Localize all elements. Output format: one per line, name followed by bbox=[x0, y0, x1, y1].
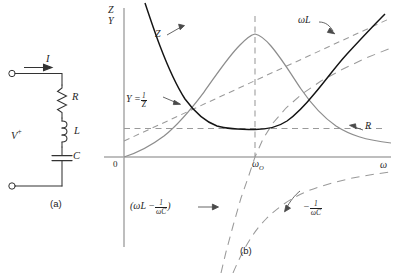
current-label: I bbox=[46, 54, 50, 65]
impedance-curve bbox=[145, 3, 385, 130]
net-reactance-label: (ωL −1ωC) bbox=[130, 199, 171, 215]
source-polarity-sign: + bbox=[17, 127, 21, 136]
capacitive-reactance-label: −1ωC bbox=[303, 200, 322, 216]
inductive-reactance-label: ωL bbox=[298, 15, 311, 26]
net-reactance-curve bbox=[221, 48, 391, 273]
admittance-lhs: Y = bbox=[126, 93, 141, 104]
resistance-label-leader bbox=[350, 124, 364, 130]
top-terminal-node bbox=[9, 70, 15, 76]
net-reactance-denominator: ωC bbox=[155, 207, 167, 216]
resistor-label: R bbox=[72, 92, 78, 103]
resonance-tick-subscript: O bbox=[259, 164, 264, 171]
inductive-reactance-line bbox=[124, 18, 391, 141]
figure-root: I V+ R L C (a) bbox=[0, 0, 399, 273]
resonance-tick-label: ωO bbox=[252, 159, 264, 172]
impedance-curve-label: Z bbox=[155, 29, 161, 40]
current-arrow bbox=[24, 64, 52, 71]
inductive-reactance-label-leader bbox=[319, 22, 335, 34]
y-axis-label-admittance: Y bbox=[108, 16, 114, 27]
net-reactance-open: (ωL − bbox=[130, 200, 155, 211]
net-reactance-fraction: 1ωC bbox=[155, 199, 167, 215]
capacitive-reactance-label-leader bbox=[285, 191, 301, 212]
net-reactance-close: ) bbox=[167, 200, 170, 211]
capacitive-reactance-curve bbox=[233, 172, 391, 273]
admittance-fraction: 1Z bbox=[141, 92, 147, 108]
y-axis-label: Z Y bbox=[108, 5, 114, 27]
source-voltage-label: V+ bbox=[11, 128, 22, 141]
admittance-denominator: Z bbox=[141, 100, 147, 109]
panel-b-caption: (b) bbox=[240, 245, 252, 256]
admittance-curve-label: Y =1Z bbox=[126, 92, 147, 108]
capacitive-reactance-sign: − bbox=[303, 201, 310, 212]
net-reactance-numerator: 1 bbox=[155, 199, 167, 207]
net-reactance-label-leader bbox=[198, 204, 219, 210]
capacitive-reactance-denominator: ωC bbox=[310, 208, 322, 217]
admittance-label-leader bbox=[163, 97, 181, 105]
resonance-tick-omega: ω bbox=[252, 158, 259, 169]
impedance-label-leader bbox=[167, 24, 185, 35]
panel-a-caption: (a) bbox=[50, 198, 62, 209]
capacitor-label: C bbox=[73, 151, 80, 162]
resistance-label: R bbox=[365, 121, 371, 132]
graph-panel: Z Y 0 ω ωO Z Y =1Z ωL R (ωL −1ωC) −1ωC (… bbox=[100, 0, 399, 273]
origin-label: 0 bbox=[113, 160, 118, 169]
frequency-response-chart bbox=[100, 0, 399, 273]
admittance-numerator: 1 bbox=[141, 92, 147, 100]
bottom-terminal-node bbox=[9, 183, 15, 189]
capacitive-reactance-fraction: 1ωC bbox=[310, 200, 322, 216]
inductor-label: L bbox=[74, 126, 80, 137]
x-axis-label: ω bbox=[380, 160, 387, 171]
admittance-curve bbox=[124, 34, 391, 157]
capacitive-reactance-numerator: 1 bbox=[310, 200, 322, 208]
